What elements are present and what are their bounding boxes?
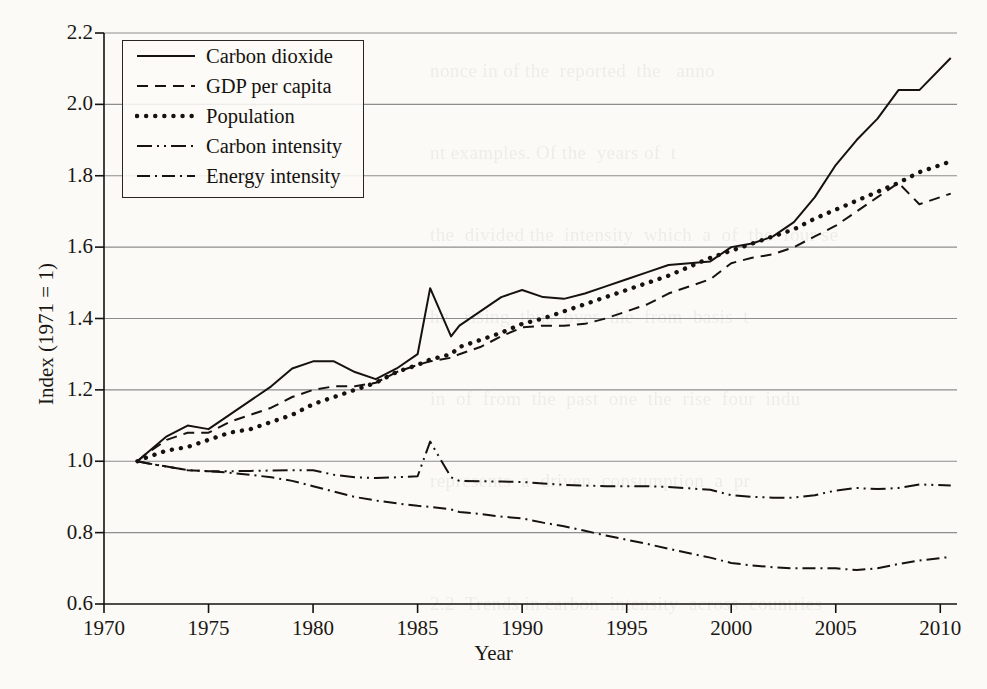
series-line-population [137,161,950,461]
y-tick-label: 2.2 [47,20,93,45]
x-tick-label: 1995 [601,616,653,641]
x-tick-label: 1970 [78,616,130,641]
legend-label: Energy intensity [206,165,341,188]
y-tick-label: 2.0 [47,91,93,116]
x-tick-label: 1990 [496,616,548,641]
legend-item-energy-intensity: Energy intensity [123,161,363,191]
legend-item-population: Population [123,101,363,131]
x-tick-label: 1975 [183,616,235,641]
legend-swatch-solid [135,49,197,63]
x-tick-label: 2005 [810,616,862,641]
y-axis-title: Index (1971 = 1) [34,263,59,405]
legend-item-gdp-per-capita: GDP per capita [123,71,363,101]
legend-label: GDP per capita [206,75,332,98]
chart-figure: nonce in of the reported the anno nt exa… [0,0,987,689]
series-line-energy-intensity [137,461,950,570]
series-line-gdp-per-capita [137,183,950,461]
x-tick-label: 2010 [914,616,966,641]
chart-legend: Carbon dioxideGDP per capitaPopulationCa… [122,40,364,198]
legend-label: Carbon intensity [206,135,342,158]
legend-swatch-dashdotdot [135,139,197,153]
x-tick-label: 1985 [392,616,444,641]
x-tick-label: 2000 [705,616,757,641]
legend-item-carbon-intensity: Carbon intensity [123,131,363,161]
legend-label: Carbon dioxide [206,45,333,68]
y-tick-label: 1.6 [47,234,93,259]
y-tick-label: 1.0 [47,448,93,473]
x-tick-label: 1980 [287,616,339,641]
series-line-carbon-intensity [137,442,950,498]
legend-swatch-dashed [135,79,197,93]
y-tick-label: 0.8 [47,520,93,545]
legend-swatch-dotted [135,109,197,123]
legend-swatch-dashdot [135,169,197,183]
y-tick-label: 0.6 [47,591,93,616]
legend-item-carbon-dioxide: Carbon dioxide [123,41,363,71]
y-tick-label: 1.8 [47,163,93,188]
legend-label: Population [206,105,295,128]
x-axis-title: Year [0,641,987,666]
